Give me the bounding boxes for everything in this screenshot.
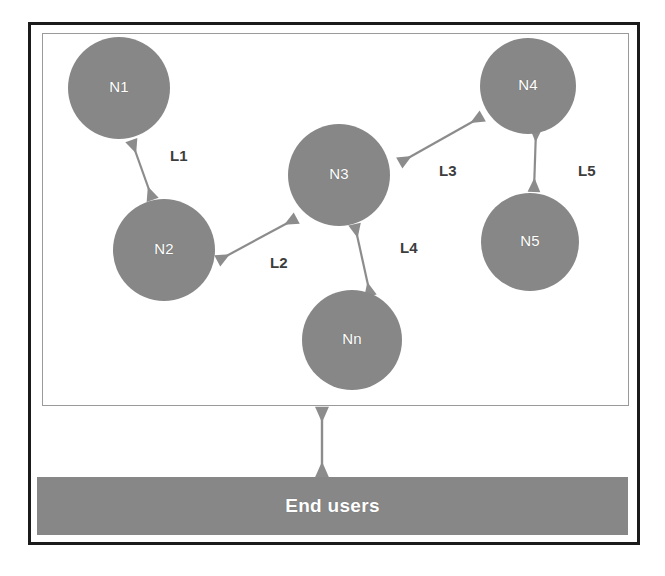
node-n1[interactable]: N1	[68, 37, 170, 139]
node-n3[interactable]: N3	[288, 124, 390, 226]
node-n4-label: N4	[518, 76, 538, 93]
link-label-l3: L3	[439, 162, 457, 179]
link-label-l1: L1	[170, 147, 188, 164]
node-nn-label: Nn	[342, 330, 362, 347]
network-diagram-figure: N1 N2 N3 N4 N5 Nn L1 L2 L3 L4 L5 End use…	[0, 0, 665, 576]
node-n2[interactable]: N2	[113, 199, 215, 301]
node-n2-label: N2	[154, 240, 174, 257]
node-n4[interactable]: N4	[480, 38, 576, 134]
node-nn[interactable]: Nn	[302, 290, 402, 390]
end-users-label: End users	[285, 495, 380, 517]
link-label-l5: L5	[578, 162, 596, 179]
end-users-bar[interactable]: End users	[37, 477, 628, 535]
link-label-l4: L4	[400, 239, 418, 256]
link-label-l2: L2	[270, 254, 288, 271]
node-n1-label: N1	[109, 78, 129, 95]
node-n3-label: N3	[329, 165, 349, 182]
node-n5-label: N5	[520, 232, 540, 249]
node-n5[interactable]: N5	[481, 193, 579, 291]
